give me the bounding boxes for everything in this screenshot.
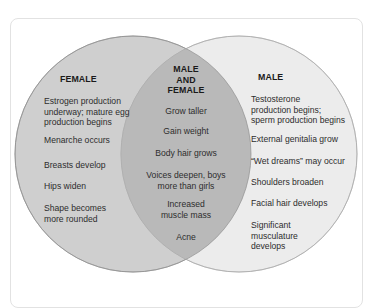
line: sperm production begins: [251, 115, 345, 126]
female-item-hips: Hips widen: [44, 181, 86, 192]
female-item-breasts: Breasts develop: [44, 160, 106, 171]
male-item-musculature: Significant musculature develops: [251, 220, 298, 252]
male-item-shoulders: Shoulders broaden: [251, 177, 324, 188]
line: Grow taller: [165, 106, 207, 116]
line: Breasts develop: [44, 160, 106, 170]
both-item-muscle-mass: Increased muscle mass: [140, 199, 232, 220]
female-item-shape: Shape becomes more rounded: [44, 203, 106, 224]
line: Significant: [251, 220, 298, 231]
line: more than girls: [134, 181, 238, 192]
male-title: MALE: [258, 72, 283, 83]
line: “Wet dreams” may occur: [251, 156, 345, 166]
female-item-estrogen: Estrogen production underway; mature egg…: [44, 96, 130, 128]
line: Gain weight: [163, 126, 208, 136]
line: Facial hair develops: [251, 198, 327, 208]
line: FEMALE: [150, 85, 222, 96]
line: AND: [150, 75, 222, 86]
line: production begins: [44, 117, 130, 128]
male-item-testosterone: Testosterone production begins; sperm pr…: [251, 94, 345, 126]
line: External genitalia grow: [251, 134, 338, 144]
both-item-acne: Acne: [140, 232, 232, 243]
line: Hips widen: [44, 181, 86, 191]
line: Acne: [176, 232, 196, 242]
line: Shoulders broaden: [251, 177, 324, 187]
line: more rounded: [44, 214, 106, 225]
both-title: MALE AND FEMALE: [150, 64, 222, 96]
line: muscle mass: [140, 210, 232, 221]
line: Voices deepen, boys: [134, 170, 238, 181]
both-item-body-hair: Body hair grows: [140, 148, 232, 159]
line: MALE: [150, 64, 222, 75]
both-item-grow-taller: Grow taller: [140, 106, 232, 117]
line: musculature: [251, 231, 298, 242]
line: underway; mature egg: [44, 107, 130, 118]
line: Estrogen production: [44, 96, 130, 107]
line: Increased: [140, 199, 232, 210]
line: production begins;: [251, 105, 345, 116]
female-title: FEMALE: [60, 74, 97, 85]
line: Body hair grows: [155, 148, 217, 158]
female-item-menarche: Menarche occurs: [44, 135, 110, 146]
both-item-voices: Voices deepen, boys more than girls: [134, 170, 238, 191]
both-item-gain-weight: Gain weight: [140, 126, 232, 137]
line: develops: [251, 241, 298, 252]
male-item-genitalia: External genitalia grow: [251, 134, 338, 145]
line: Testosterone: [251, 94, 345, 105]
line: Shape becomes: [44, 203, 106, 214]
male-item-facial-hair: Facial hair develops: [251, 198, 327, 209]
male-item-wet-dreams: “Wet dreams” may occur: [251, 156, 345, 167]
